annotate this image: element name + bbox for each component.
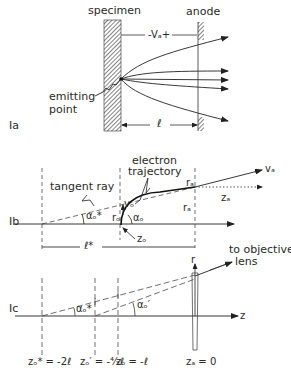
va-label: vₐ xyxy=(265,164,275,174)
anode-bottom xyxy=(198,117,204,131)
alpha-star-b-label: αₒ* xyxy=(86,211,102,221)
l-star-label: ℓ* xyxy=(84,241,93,251)
ra-top-label: rₐ xyxy=(186,178,194,188)
alpha-star-c-label: αₒ* xyxy=(76,304,92,314)
panel-ic xyxy=(15,262,238,355)
ro-label: rₒ xyxy=(112,213,120,223)
electron-optics-diagram: specimen anode -Vₐ+ emitting point ℓ Ia … xyxy=(0,0,291,375)
za-label: zₐ xyxy=(221,193,230,203)
panel-ib-label: Ib xyxy=(9,216,19,227)
specimen-block xyxy=(104,20,121,131)
alpha-o-label: αₒ xyxy=(133,213,144,223)
ra-side-label: rₐ xyxy=(183,203,191,213)
tick-z-a: zₐ = 0 xyxy=(186,357,216,367)
diagram-canvas xyxy=(0,0,291,375)
panel-ia-label: Ia xyxy=(9,120,19,131)
zo-label: zₒ xyxy=(137,234,146,244)
voltage-label: -Vₐ+ xyxy=(148,30,170,40)
tick-z-o: zₒ = -ℓ xyxy=(116,357,148,367)
objective-label-line1: to objective xyxy=(229,244,291,255)
emitting-label-line1: emitting xyxy=(49,91,95,102)
z-axis-label: z xyxy=(240,311,245,321)
trajectory-label-line2: trajectory xyxy=(128,166,182,177)
panel-ic-label: Ic xyxy=(9,303,18,314)
alpha-prime-label: αₒ′ xyxy=(137,300,150,310)
anode-label: anode xyxy=(186,6,220,17)
vo-label: vₒ xyxy=(124,199,134,209)
objective-label-line2: lens xyxy=(235,256,258,267)
specimen-label: specimen xyxy=(88,5,141,16)
distance-label: ℓ xyxy=(157,118,162,129)
emitting-label-line2: point xyxy=(49,104,77,115)
tangent-ray-label: tangent ray xyxy=(50,181,114,192)
anode-top xyxy=(198,22,204,40)
r-axis-label: r xyxy=(191,255,195,265)
tick-z-star: zₒ* = -2ℓ xyxy=(28,357,71,367)
